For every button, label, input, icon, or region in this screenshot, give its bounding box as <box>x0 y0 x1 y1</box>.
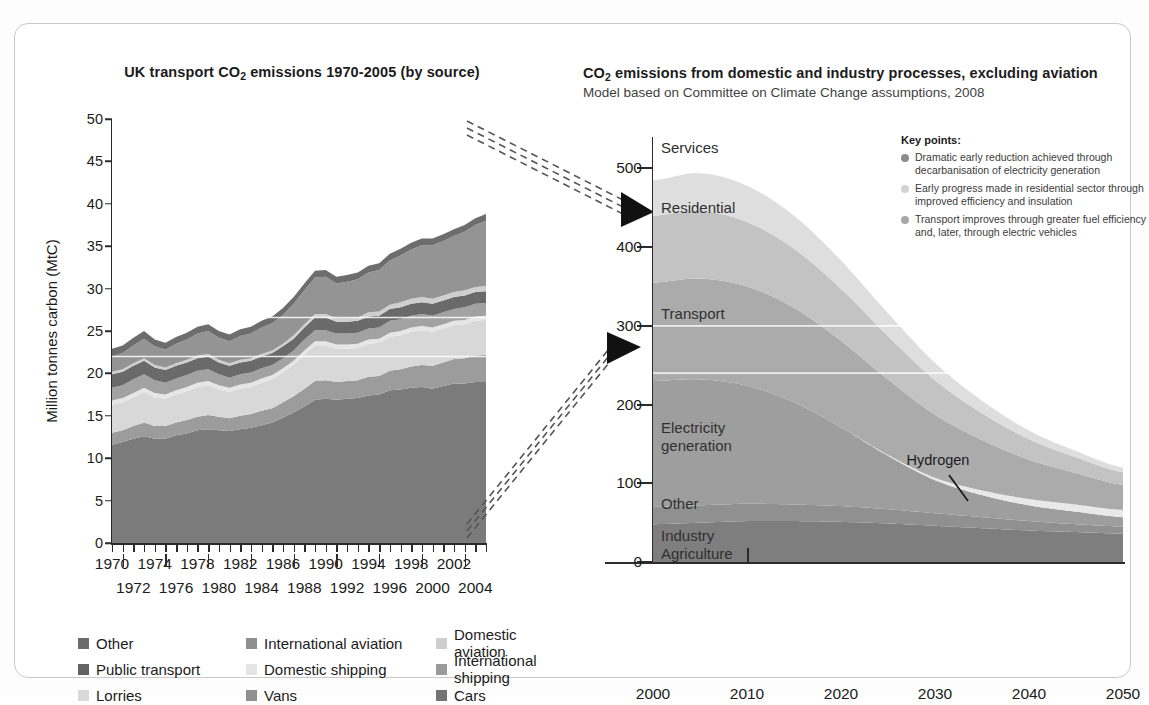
right-y-tick-label-0: 0 <box>633 553 642 571</box>
left-x-tickmark-1971 <box>123 543 124 552</box>
legend-item-domestic-shipping[interactable]: Domestic shipping <box>246 656 436 682</box>
legend: OtherInternational aviationDomestic avia… <box>78 630 598 705</box>
left-x-tickmark-1991 <box>336 543 337 552</box>
legend-item-lorries[interactable]: Lorries <box>78 682 246 705</box>
left-title-post: emissions 1970-2005 (by source) <box>246 64 480 80</box>
key-point-row: Dramatic early reduction achieved throug… <box>901 151 1147 176</box>
key-points-heading: Key points: <box>901 134 1147 146</box>
legend-swatch-icon <box>78 638 89 649</box>
left-x-tickmark-1982 <box>240 543 241 552</box>
legend-item-international-shipping[interactable]: International shipping <box>436 656 556 682</box>
left-x-tickmark-1999 <box>422 543 423 552</box>
legend-item-other[interactable]: Other <box>78 630 246 656</box>
right-band-label-services: Services <box>661 139 719 156</box>
left-y-tick-label-50: 50 <box>87 111 103 127</box>
right-title-pre: CO <box>583 65 605 81</box>
key-point-text: Dramatic early reduction achieved throug… <box>915 151 1147 176</box>
connector-bottom-line-a <box>467 344 613 524</box>
right-band-label-electricity: Electricity <box>661 419 725 436</box>
left-x-tickmark-1988 <box>304 543 305 552</box>
left-x-label-separator <box>123 554 124 567</box>
key-point-bullet-icon <box>901 185 909 193</box>
left-x-tickmark-1977 <box>187 543 188 552</box>
right-x-label-2030: 2030 <box>918 685 952 703</box>
legend-item-label: Domestic shipping <box>264 661 387 678</box>
right-x-label-2000: 2000 <box>636 685 670 703</box>
left-x-label-1976: 1976 <box>159 579 193 597</box>
left-x-tickmark-1975 <box>165 543 166 552</box>
key-point-row: Transport improves through greater fuel … <box>901 213 1147 238</box>
left-y-tickmark-30 <box>105 288 112 290</box>
left-y-tickmark-35 <box>105 245 112 247</box>
legend-item-cars[interactable]: Cars <box>436 682 556 705</box>
left-y-tick-label-25: 25 <box>87 323 103 339</box>
left-y-axis-label-text: Million tonnes carbon (MtC) <box>43 239 60 422</box>
left-x-label-2002: 2002 <box>437 555 471 573</box>
left-x-label-1978: 1978 <box>180 555 214 573</box>
left-y-tick-label-5: 5 <box>95 493 103 509</box>
left-x-tickmark-1992 <box>347 543 348 552</box>
left-y-tick-label-20: 20 <box>87 365 103 381</box>
left-x-tickmark-2004 <box>475 543 476 552</box>
left-x-tickmark-1981 <box>230 543 231 552</box>
left-x-tickmark-1996 <box>390 543 391 552</box>
connector-top-arrowhead <box>621 192 654 227</box>
left-x-tickmark-1974 <box>155 543 156 552</box>
left-x-tickmark-1978 <box>197 543 198 552</box>
left-x-label-separator <box>465 554 466 567</box>
left-x-tickmark-1995 <box>379 543 380 552</box>
left-x-tickmark-2003 <box>465 543 466 552</box>
left-y-tickmark-25 <box>105 330 112 332</box>
left-y-tickmark-40 <box>105 203 112 205</box>
left-y-tick-label-40: 40 <box>87 196 103 212</box>
left-x-tickmark-1997 <box>401 543 402 552</box>
left-x-tickmark-1987 <box>294 543 295 552</box>
right-title-post: emissions from domestic and industry pro… <box>611 65 1098 81</box>
legend-item-international-aviation[interactable]: International aviation <box>246 630 436 656</box>
left-x-tickmark-2005 <box>486 543 487 552</box>
left-area-chart <box>112 119 486 543</box>
left-y-tick-label-45: 45 <box>87 153 103 169</box>
left-x-tickmark-2000 <box>433 543 434 552</box>
right-band-label-other: Other <box>661 495 699 512</box>
hydrogen-annotation-label: Hydrogen <box>907 452 970 468</box>
legend-item-label: Lorries <box>96 687 142 704</box>
left-x-label-2004: 2004 <box>458 579 492 597</box>
left-x-label-1988: 1988 <box>287 579 321 597</box>
legend-item-label: International shipping <box>454 652 556 686</box>
left-y-tickmark-20 <box>105 373 112 375</box>
left-x-label-1980: 1980 <box>202 579 236 597</box>
key-point-text: Transport improves through greater fuel … <box>915 213 1147 238</box>
legend-swatch-icon <box>246 638 257 649</box>
right-x-label-2050: 2050 <box>1106 685 1140 703</box>
right-y-tick-label-200: 200 <box>616 396 642 414</box>
left-x-tickmark-1989 <box>315 543 316 552</box>
left-y-tick-label-0: 0 <box>95 535 103 551</box>
key-point-row: Early progress made in residential secto… <box>901 182 1147 207</box>
legend-swatch-icon <box>78 690 89 701</box>
left-x-tickmark-1998 <box>411 543 412 552</box>
left-x-tickmark-1970 <box>112 543 113 552</box>
key-points-list: Dramatic early reduction achieved throug… <box>901 151 1147 238</box>
legend-item-label: International aviation <box>264 635 402 652</box>
left-y-tickmark-45 <box>105 161 112 163</box>
right-band-label-residential: Residential <box>661 199 735 216</box>
left-x-label-separator <box>422 554 423 567</box>
legend-swatch-icon <box>246 690 257 701</box>
key-point-text: Early progress made in residential secto… <box>915 182 1147 207</box>
key-point-bullet-icon <box>901 154 909 162</box>
right-x-label-2010: 2010 <box>730 685 764 703</box>
left-y-tick-label-30: 30 <box>87 281 103 297</box>
left-x-label-1992: 1992 <box>330 579 364 597</box>
legend-item-vans[interactable]: Vans <box>246 682 436 705</box>
left-x-label-separator <box>379 554 380 567</box>
legend-swatch-icon <box>436 690 447 701</box>
legend-item-public-transport[interactable]: Public transport <box>78 656 246 682</box>
connector-bottom-arrowhead <box>607 332 641 364</box>
legend-item-label: Vans <box>264 687 297 704</box>
left-chart-plot-area: 05101520253035404550 <box>112 119 486 543</box>
legend-row: Public transportDomestic shippingInterna… <box>78 656 598 682</box>
left-y-tickmark-10 <box>105 457 112 459</box>
right-chart-subtitle: Model based on Committee on Climate Chan… <box>583 84 1143 101</box>
right-y-tick-label-300: 300 <box>616 317 642 335</box>
